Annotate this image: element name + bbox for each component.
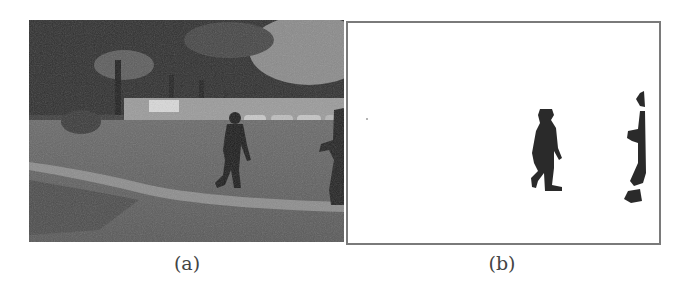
scene-photo [29, 20, 344, 242]
foreground-mask [348, 23, 659, 243]
panel-b-caption: (b) [472, 252, 532, 274]
original-frame-image [29, 20, 344, 242]
segmentation-mask-image [346, 21, 661, 245]
panel-a-caption: (a) [157, 252, 217, 274]
